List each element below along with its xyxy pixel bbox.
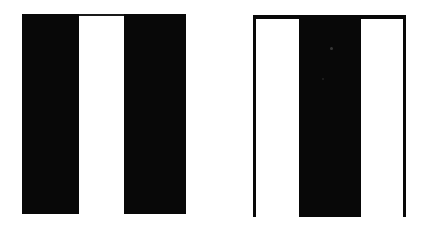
left-solid-bar-second — [124, 14, 186, 214]
left-solid-bar-first — [22, 14, 79, 214]
speck-lower-artifact — [322, 78, 324, 80]
illustration-canvas: Figure-ground ambiguous bar illustration… — [0, 0, 424, 230]
speck-upper-artifact — [330, 47, 333, 50]
right-left-vertical-stroke — [253, 15, 256, 217]
right-center-filled-bar — [299, 15, 361, 217]
right-right-vertical-stroke — [403, 15, 406, 217]
